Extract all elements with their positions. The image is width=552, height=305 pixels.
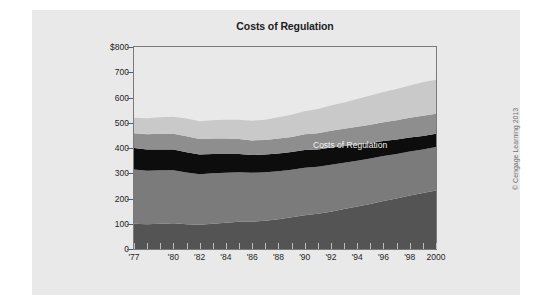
x-tick-mark-1987: [265, 243, 266, 249]
y-tick-label-800: $800: [81, 42, 129, 52]
x-tick-mark-1995: [370, 243, 371, 249]
x-tick-mark-1997: [397, 243, 398, 249]
x-tick-label-1982: '82: [194, 252, 205, 262]
x-tick-mark-1991: [318, 243, 319, 249]
x-tick-label-1998: '98: [404, 252, 415, 262]
y-tick-mark-200: [127, 199, 133, 200]
x-tick-label-1980: '80: [168, 252, 179, 262]
x-tick-mark-1993: [344, 243, 345, 249]
y-tick-label-100: 100: [81, 219, 129, 229]
x-tick-label-1986: '86: [247, 252, 258, 262]
x-tick-mark-1978: [147, 243, 148, 249]
x-tick-mark-1984: [226, 243, 227, 249]
y-tick-mark-100: [127, 224, 133, 225]
x-tick-label-1988: '88: [273, 252, 284, 262]
x-tick-mark-1981: [187, 243, 188, 249]
x-tick-label-1990: '90: [299, 252, 310, 262]
y-tick-mark-600: [127, 98, 133, 99]
y-tick-mark-0: [127, 249, 133, 250]
x-tick-label-1994: '94: [352, 252, 363, 262]
y-tick-label-700: 700: [81, 67, 129, 77]
x-tick-mark-1985: [239, 243, 240, 249]
x-tick-mark-1979: [160, 243, 161, 249]
x-tick-mark-1990: [305, 243, 306, 249]
plot-annotation-label: Costs of Regulation: [313, 140, 387, 150]
y-tick-mark-500: [127, 123, 133, 124]
x-tick-label-1984: '84: [220, 252, 231, 262]
y-tick-mark-400: [127, 148, 133, 149]
chart-title: Costs of Regulation: [133, 20, 437, 32]
y-tick-mark-700: [127, 72, 133, 73]
x-tick-mark-1999: [423, 243, 424, 249]
x-tick-label-1996: '96: [378, 252, 389, 262]
x-tick-label-2000: 2000: [427, 252, 446, 262]
x-tick-mark-1989: [292, 243, 293, 249]
x-tick-mark-2000: [436, 243, 437, 249]
y-tick-mark-300: [127, 173, 133, 174]
y-tick-label-400: 400: [81, 143, 129, 153]
x-tick-mark-1982: [200, 243, 201, 249]
figure-container: Costs of Regulation Environmental Regula…: [0, 0, 552, 305]
x-tick-mark-1996: [383, 243, 384, 249]
y-tick-label-500: 500: [81, 118, 129, 128]
x-tick-mark-1992: [331, 243, 332, 249]
x-tick-mark-1983: [213, 243, 214, 249]
y-tick-label-200: 200: [81, 194, 129, 204]
x-axis: '77'80'82'84'86'88'90'92'94'96'982000: [0, 252, 552, 268]
y-tick-label-300: 300: [81, 168, 129, 178]
x-tick-mark-1994: [357, 243, 358, 249]
x-tick-label-1992: '92: [325, 252, 336, 262]
x-tick-mark-1977: [134, 243, 135, 249]
y-tick-label-600: 600: [81, 93, 129, 103]
y-tick-mark-800: [127, 47, 133, 48]
x-tick-mark-1986: [252, 243, 253, 249]
x-tick-label-1977: '77: [128, 252, 139, 262]
x-tick-mark-1980: [173, 243, 174, 249]
stacked-area-plot: [134, 47, 436, 249]
x-tick-mark-1988: [278, 243, 279, 249]
copyright-credit: © Cengage Learning 2013: [512, 108, 519, 190]
x-tick-mark-1998: [410, 243, 411, 249]
